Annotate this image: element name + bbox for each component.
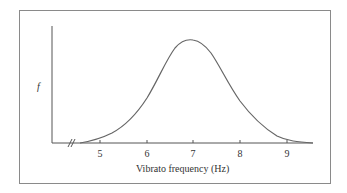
x-axis-label: Vibrato frequency (Hz) bbox=[136, 164, 229, 174]
x-tick-label-6: 6 bbox=[145, 149, 150, 159]
x-tick-label-7: 7 bbox=[191, 149, 196, 159]
y-axis-label: f bbox=[37, 82, 40, 92]
distribution-curve bbox=[80, 40, 313, 143]
x-tick-label-5: 5 bbox=[98, 149, 103, 159]
x-tick-label-9: 9 bbox=[285, 149, 290, 159]
x-tick-label-8: 8 bbox=[238, 149, 243, 159]
